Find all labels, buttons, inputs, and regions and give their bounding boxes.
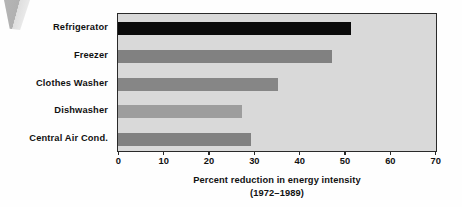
caption-line-1: Percent reduction in energy intensity: [117, 174, 437, 187]
x-tick-label: 70: [431, 156, 441, 166]
axis-caption: Percent reduction in energy intensity (1…: [117, 174, 437, 199]
plot-area: [117, 13, 437, 152]
x-tick-mark: [163, 151, 164, 155]
caption-line-2: (1972–1989): [117, 187, 437, 200]
bar: [118, 133, 251, 146]
category-label: Refrigerator: [53, 21, 108, 34]
bar: [118, 22, 351, 35]
x-tick-label: 60: [385, 156, 395, 166]
category-axis-labels: RefrigeratorFreezerClothes WasherDishwas…: [0, 13, 112, 152]
category-label: Dishwasher: [54, 104, 108, 117]
x-tick-mark: [390, 151, 391, 155]
x-tick-label: 0: [116, 156, 121, 166]
bar: [118, 50, 332, 63]
x-tick-label: 20: [204, 156, 214, 166]
x-tick-label: 10: [158, 156, 168, 166]
x-tick-mark: [344, 151, 345, 155]
category-label: Central Air Cond.: [29, 132, 108, 145]
category-label: Freezer: [74, 49, 108, 62]
x-tick-label: 30: [249, 156, 259, 166]
x-tick-mark: [299, 151, 300, 155]
x-axis: 010203040506070: [117, 151, 437, 173]
x-tick-label: 40: [294, 156, 304, 166]
x-tick-label: 50: [340, 156, 350, 166]
bars-layer: [118, 14, 436, 151]
x-tick-mark: [435, 151, 436, 155]
category-label: Clothes Washer: [36, 77, 108, 90]
chart-figure: RefrigeratorFreezerClothes WasherDishwas…: [0, 0, 462, 207]
bar: [118, 78, 278, 91]
x-tick-mark: [118, 151, 119, 155]
x-tick-mark: [208, 151, 209, 155]
bar: [118, 105, 242, 118]
x-tick-mark: [254, 151, 255, 155]
